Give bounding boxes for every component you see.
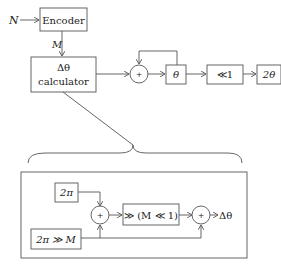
theta-label: θ	[173, 69, 179, 80]
feedback-loop	[139, 51, 177, 65]
input-label: N	[8, 14, 19, 27]
two-pi-label: 2π	[59, 187, 73, 198]
shift-block-label: ≫ (M ≪ 1)	[124, 210, 178, 221]
two-pi-shift-label: 2π ≫ M	[35, 234, 76, 245]
block-diagram: N Encoder M Δθ calculator + θ ≪1 2θ 2π 2…	[0, 0, 281, 269]
encoder-label: Encoder	[42, 15, 85, 26]
adder2-symbol: +	[198, 211, 205, 220]
adder-symbol: +	[136, 70, 143, 79]
expand-brace	[28, 145, 242, 163]
adder1-symbol: +	[97, 211, 104, 220]
calc-label-line1: Δθ	[57, 62, 70, 73]
calc-label-line2: calculator	[38, 76, 89, 87]
shift-label: ≪1	[217, 69, 233, 80]
output-label: 2θ	[262, 69, 275, 80]
expand-connector	[63, 92, 133, 145]
detail-output-label: Δθ	[219, 210, 232, 221]
encoder-output-label: M	[51, 39, 63, 50]
